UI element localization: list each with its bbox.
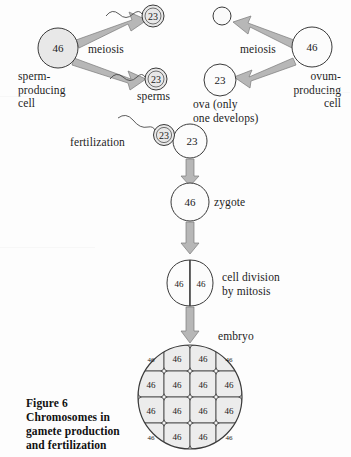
diagram-canvas: 46 23 23 46 23 xyxy=(0,0,351,457)
embryo-cell-value: 46 xyxy=(199,432,209,442)
embryo-cell-value: 46 xyxy=(199,406,209,416)
ovum-producing-cell-value: 46 xyxy=(307,41,319,53)
label-embryo: embryo xyxy=(218,330,254,344)
embryo-cell-value: 46 xyxy=(148,356,156,364)
label-ovum-producing-cell: ovum- producing cell xyxy=(266,70,341,111)
label-zygote: zygote xyxy=(214,196,245,210)
dividing-cell-value-left: 46 xyxy=(175,279,185,289)
arrow-fertilization-to-zygote xyxy=(181,159,199,186)
embryo-cell-value: 46 xyxy=(173,354,183,364)
fertilized-ovum-value: 23 xyxy=(187,135,199,147)
label-meiosis-left: meiosis xyxy=(88,43,124,57)
node-sperm-producing-cell: 46 xyxy=(38,28,78,68)
node-dividing-cell: 46 46 xyxy=(167,260,213,306)
sperm-top-value: 23 xyxy=(148,11,158,22)
label-fertilization: fertilization xyxy=(70,136,125,150)
sperm-producing-cell-value: 46 xyxy=(53,42,65,54)
embryo-cell-value: 46 xyxy=(173,380,183,390)
node-fertilized-ovum: 23 xyxy=(173,124,207,158)
node-polar-body xyxy=(213,7,231,25)
label-sperm-producing-cell: sperm- producing cell xyxy=(18,70,66,111)
embryo-cell-value: 46 xyxy=(199,380,209,390)
fertilizing-sperm-value: 23 xyxy=(159,130,169,141)
figure-chromosomes-diagram: 46 23 23 46 23 xyxy=(0,0,351,457)
embryo-cell-value: 46 xyxy=(226,434,234,442)
node-fertilizing-sperm: 23 xyxy=(118,115,175,145)
embryo-cell-value: 46 xyxy=(226,356,234,364)
arrow-zygote-to-dividing-cell xyxy=(181,222,199,254)
label-ova-note: ova (only one develops) xyxy=(193,98,259,125)
embryo-cell-value: 46 xyxy=(173,406,183,416)
arrow-meiosis-sperm-lower xyxy=(72,58,146,90)
figure-caption: Figure 6 Chromosomes in gamete productio… xyxy=(26,396,120,452)
sperm-bottom-value: 23 xyxy=(151,74,161,85)
scan-artifact xyxy=(0,96,30,97)
label-sperms: sperms xyxy=(137,90,170,104)
arrow-dividing-cell-to-embryo xyxy=(181,307,199,343)
label-cell-division: cell division by mitosis xyxy=(222,271,280,298)
node-ovum: 23 xyxy=(204,64,236,96)
embryo-cell-value: 46 xyxy=(148,434,156,442)
embryo-cell-value: 46 xyxy=(199,354,209,364)
label-meiosis-right: meiosis xyxy=(240,43,276,57)
embryo-cell-value: 46 xyxy=(173,432,183,442)
ovum-value: 23 xyxy=(215,74,227,86)
embryo-cell-value: 46 xyxy=(225,406,235,416)
embryo-cell-value: 46 xyxy=(147,406,157,416)
scan-artifact xyxy=(0,247,95,248)
node-zygote: 46 xyxy=(171,183,209,221)
zygote-value: 46 xyxy=(185,196,197,208)
node-embryo: 46 46 46 46 46 46 46 46 46 46 46 46 46 4… xyxy=(136,343,244,451)
dividing-cell-value-right: 46 xyxy=(197,279,207,289)
embryo-cell-value: 46 xyxy=(147,380,157,390)
scan-artifact xyxy=(316,92,350,93)
embryo-cell-value: 46 xyxy=(225,380,235,390)
node-ovum-producing-cell: 46 xyxy=(292,27,332,67)
